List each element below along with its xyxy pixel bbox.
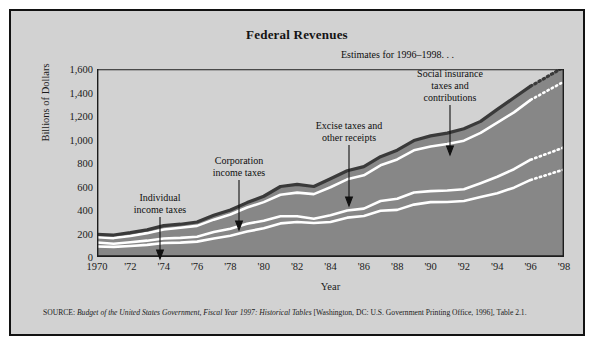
y-tick-1400: 1,400 xyxy=(49,87,93,98)
y-tick-1200: 1,200 xyxy=(49,111,93,122)
x-tick-1978: '78 xyxy=(224,261,236,272)
x-tick-1980: '80 xyxy=(258,261,270,272)
annotation-corporation-income-taxes: Corporation income taxes xyxy=(193,155,285,179)
figure-frame: Federal Revenues Estimates for 1996–1998… xyxy=(9,9,585,336)
y-tick-800: 800 xyxy=(49,158,93,169)
x-axis-title: Year xyxy=(97,281,564,292)
x-tick-1970: 1970 xyxy=(87,261,108,272)
y-tick-600: 600 xyxy=(49,181,93,192)
x-tick-1976: '76 xyxy=(191,261,203,272)
chart-title: Federal Revenues xyxy=(21,27,573,43)
x-tick-1990: '90 xyxy=(424,261,436,272)
y-tick-1000: 1,000 xyxy=(49,134,93,145)
source-suffix: [Washington, DC: U.S. Government Printin… xyxy=(312,308,527,317)
y-axis-ticks: 0 200 400 600 800 1,000 1,200 1,400 1,60… xyxy=(45,69,93,257)
x-tick-1974: '74 xyxy=(157,261,169,272)
y-tick-400: 400 xyxy=(49,205,93,216)
x-tick-1986: '86 xyxy=(358,261,370,272)
annotation-social-insurance: Social insurance taxes and contributions xyxy=(402,68,498,104)
x-tick-1982: '82 xyxy=(291,261,303,272)
x-tick-1994: '94 xyxy=(491,261,503,272)
y-tick-200: 200 xyxy=(49,228,93,239)
x-tick-1988: '88 xyxy=(391,261,403,272)
source-note: SOURCE: Budget of the United States Gove… xyxy=(43,307,559,318)
y-tick-1600: 1,600 xyxy=(49,64,93,75)
figure-inner: Federal Revenues Estimates for 1996–1998… xyxy=(21,19,573,326)
x-tick-1972: '72 xyxy=(124,261,136,272)
x-tick-1984: '84 xyxy=(324,261,336,272)
annotation-estimates: Estimates for 1996–1998. . . xyxy=(341,49,454,60)
annotation-individual-income-taxes: Individual income taxes xyxy=(114,192,206,216)
source-title: Budget of the United States Government, … xyxy=(77,308,312,317)
x-tick-1992: '92 xyxy=(458,261,470,272)
source-prefix: SOURCE: xyxy=(43,308,77,317)
x-axis-ticks: 1970 '72 '74 '76 '78 '80 '82 '84 '86 '88… xyxy=(97,261,564,277)
x-tick-1996: '96 xyxy=(524,261,536,272)
annotation-excise-taxes: Excise taxes and other receipts xyxy=(299,120,399,144)
x-tick-1998: '98 xyxy=(558,261,570,272)
